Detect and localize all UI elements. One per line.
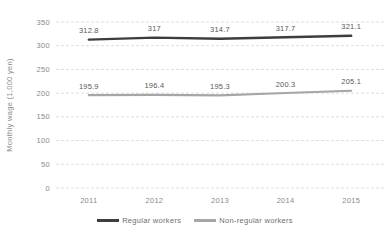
monthly-wage-line-chart: Monthly wage (1,000 yen) 050100150200250… bbox=[0, 0, 390, 245]
plot-area: 0501001502002503003502011201220132014201… bbox=[0, 0, 390, 245]
y-tick-label: 150 bbox=[37, 112, 50, 121]
legend-item-regular-workers: Regular workers bbox=[97, 216, 181, 225]
y-tick-label: 100 bbox=[37, 136, 50, 145]
x-tick-label: 2012 bbox=[145, 196, 163, 205]
y-tick-label: 300 bbox=[37, 41, 50, 50]
y-tick-label: 250 bbox=[37, 65, 50, 74]
data-label-regular: 317 bbox=[148, 24, 161, 33]
data-label-non-regular: 195.9 bbox=[79, 82, 99, 91]
regular-workers-line-swatch bbox=[97, 219, 119, 222]
y-tick-label: 0 bbox=[46, 184, 50, 193]
data-label-non-regular: 200.3 bbox=[276, 80, 296, 89]
legend-label-non-regular-workers: Non-regular workers bbox=[219, 216, 293, 225]
y-tick-label: 350 bbox=[37, 18, 50, 27]
y-tick-label: 200 bbox=[37, 89, 50, 98]
data-label-non-regular: 205.1 bbox=[341, 77, 361, 86]
data-label-regular: 312.8 bbox=[79, 26, 99, 35]
x-tick-label: 2015 bbox=[342, 196, 360, 205]
y-tick-label: 50 bbox=[41, 160, 50, 169]
non-regular-workers-line-swatch bbox=[194, 219, 216, 222]
data-label-regular: 317.7 bbox=[276, 24, 296, 33]
data-label-regular: 321.1 bbox=[341, 22, 361, 31]
legend-label-regular-workers: Regular workers bbox=[122, 216, 181, 225]
series-line-regular bbox=[89, 36, 351, 40]
data-label-regular: 314.7 bbox=[210, 25, 230, 34]
x-tick-label: 2014 bbox=[277, 196, 295, 205]
data-label-non-regular: 195.3 bbox=[210, 82, 230, 91]
data-label-non-regular: 196.4 bbox=[145, 81, 165, 90]
legend-item-non-regular-workers: Non-regular workers bbox=[194, 216, 293, 225]
x-tick-label: 2011 bbox=[80, 196, 97, 205]
legend: Regular workers Non-regular workers bbox=[0, 216, 390, 225]
x-tick-label: 2013 bbox=[211, 196, 229, 205]
